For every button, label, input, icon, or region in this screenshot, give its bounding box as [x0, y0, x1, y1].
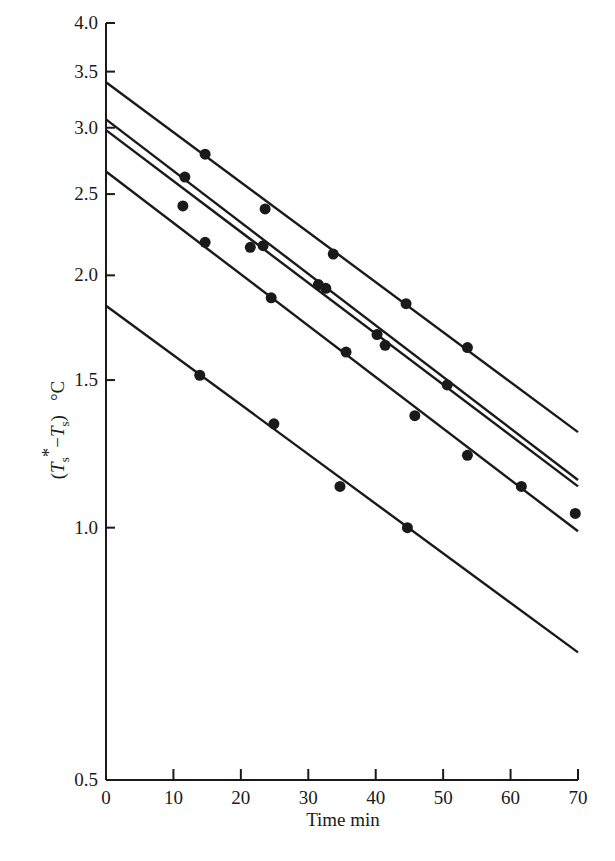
- y-tick-label: 2.0: [74, 264, 98, 285]
- data-point: [194, 370, 205, 381]
- data-point: [268, 418, 279, 429]
- data-point: [442, 379, 453, 390]
- series-5: [106, 306, 578, 653]
- data-point: [462, 342, 473, 353]
- data-point: [409, 410, 420, 421]
- data-point: [179, 172, 190, 183]
- y-tick-label: 3.0: [74, 117, 98, 138]
- x-tick-label: 30: [299, 787, 318, 808]
- y-tick-label: 1.5: [74, 369, 98, 390]
- series-2: [106, 119, 578, 480]
- x-tick-label: 20: [231, 787, 250, 808]
- axes: 0.51.01.52.02.53.03.54.0 010203040506070: [74, 12, 587, 808]
- x-tick-label: 0: [101, 787, 111, 808]
- x-axis-title: Time min: [306, 809, 380, 830]
- data-point: [328, 249, 339, 260]
- y-axis-title: (Ts*−Ts)°C: [38, 381, 72, 479]
- y-axis-ticks: 0.51.01.52.02.53.03.54.0: [74, 12, 115, 790]
- data-point: [200, 149, 211, 160]
- y-tick-label: 3.5: [74, 61, 98, 82]
- x-tick-label: 50: [434, 787, 453, 808]
- y-tick-label: 2.5: [74, 183, 98, 204]
- fit-line: [106, 119, 578, 480]
- data-point: [177, 200, 188, 211]
- y-tick-label: 0.5: [74, 769, 98, 790]
- data-point: [341, 347, 352, 358]
- data-point: [402, 522, 413, 533]
- data-point: [245, 242, 256, 253]
- x-tick-label: 60: [501, 787, 520, 808]
- series-3: [106, 130, 578, 486]
- fit-line: [106, 130, 578, 486]
- fit-line: [106, 82, 578, 432]
- data-point: [200, 237, 211, 248]
- data-point: [260, 203, 271, 214]
- data-point: [334, 481, 345, 492]
- data-point: [516, 481, 527, 492]
- data-point: [313, 279, 324, 290]
- data-point: [401, 298, 412, 309]
- data-point: [570, 508, 581, 519]
- data-point: [266, 292, 277, 303]
- series-1: [106, 82, 578, 432]
- data-point: [462, 450, 473, 461]
- plot-area: [106, 82, 581, 652]
- y-tick-label: 4.0: [74, 12, 98, 33]
- chart: 0.51.01.52.02.53.03.54.0 010203040506070…: [0, 0, 615, 861]
- x-tick-label: 10: [164, 787, 183, 808]
- y-tick-label: 1.0: [74, 517, 98, 538]
- data-point: [372, 329, 383, 340]
- series-4: [106, 172, 581, 532]
- x-tick-label: 40: [366, 787, 385, 808]
- x-axis-ticks: 010203040506070: [101, 769, 587, 808]
- svg-text:(Ts*−Ts)°C: (Ts*−Ts)°C: [38, 381, 72, 479]
- x-tick-label: 70: [569, 787, 588, 808]
- fit-line: [106, 306, 578, 653]
